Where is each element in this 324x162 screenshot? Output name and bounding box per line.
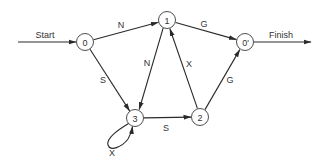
edge-label-0-3: S: [100, 75, 106, 85]
node-3: 3: [127, 110, 144, 127]
state-diagram: Start Finish N G S N X G S X 0 1 0' 3 2: [0, 0, 324, 162]
edge-2-to-0prime: [205, 50, 240, 110]
edge-label-1-3: N: [144, 58, 151, 68]
edge-label-1-0prime: G: [200, 19, 207, 29]
edge-3-to-2: [144, 117, 191, 118]
node-1-label: 1: [164, 16, 169, 26]
node-0-prime-label: 0': [242, 38, 249, 48]
edge-0-to-3: [90, 49, 130, 111]
edge-label-2-0prime: G: [226, 75, 233, 85]
node-3-label: 3: [132, 114, 137, 124]
node-2-label: 2: [197, 113, 202, 123]
edge-2-to-1: [170, 29, 198, 109]
edge-0-to-1: [94, 22, 159, 40]
node-0-prime: 0': [237, 34, 254, 51]
node-1: 1: [159, 12, 176, 29]
node-0-label: 0: [82, 38, 87, 48]
finish-label: Finish: [269, 30, 293, 40]
node-0: 0: [77, 34, 94, 51]
edge-label-0-1: N: [118, 20, 125, 30]
node-2: 2: [192, 109, 209, 126]
edge-3-self-loop: [108, 124, 133, 149]
start-label: Start: [35, 30, 55, 40]
edge-label-2-1: X: [186, 59, 192, 69]
edge-label-3-2: S: [163, 123, 169, 133]
edge-1-to-3: [139, 28, 163, 110]
edge-label-3-3: X: [109, 148, 115, 158]
